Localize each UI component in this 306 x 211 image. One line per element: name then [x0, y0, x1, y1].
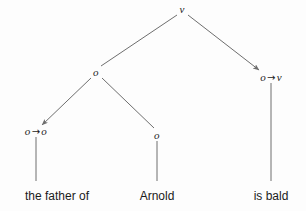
category-node-right-o-v: o→v — [259, 72, 284, 83]
arrow-icon: → — [266, 72, 277, 83]
tree-edge-left-o-to-o-o — [42, 78, 91, 125]
tree-edge-root-to-right-o-v — [188, 15, 259, 70]
category-node-mid-o: o — [153, 130, 162, 141]
tree-edges-layer — [0, 0, 306, 211]
leaf-word-leaf-bald: is bald — [254, 190, 289, 202]
category-node-left-o: o — [92, 67, 101, 78]
leaf-word-leaf-arnold: Arnold — [140, 190, 175, 202]
category-node-root: v — [178, 4, 186, 15]
leaf-word-leaf-father: the father of — [25, 190, 89, 202]
tree-edge-left-o-to-mid-o — [102, 78, 154, 128]
diagram-canvas: voo→vo→oo the father ofArnoldis bald — [0, 0, 306, 211]
tree-edge-root-to-left-o — [101, 15, 177, 66]
arrow-icon: → — [31, 126, 42, 137]
edges-group — [36, 15, 271, 181]
category-node-left-o-o: o→o — [23, 126, 48, 137]
